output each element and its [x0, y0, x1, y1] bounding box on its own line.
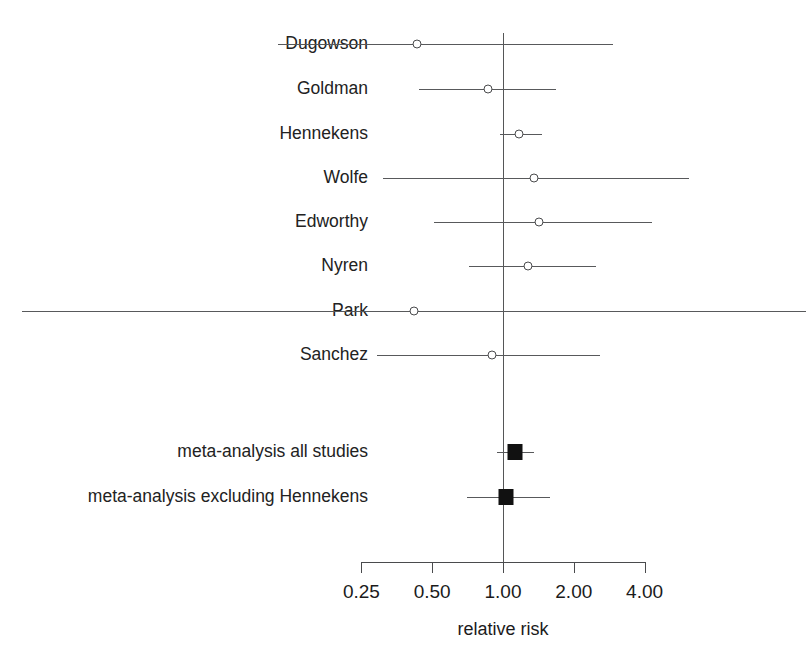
x-axis-tick-label: 2.00: [555, 582, 592, 601]
x-axis-title: relative risk: [457, 620, 548, 638]
forest-plot: DugowsonGoldmanHennekensWolfeEdworthyNyr…: [0, 0, 811, 666]
x-axis-tick: [503, 562, 504, 573]
x-axis-tick: [361, 562, 362, 573]
x-axis-tick-label: 0.25: [343, 582, 380, 601]
study-row-label: Edworthy: [295, 213, 368, 231]
point-estimate-marker: [483, 85, 492, 94]
study-row-label: Wolfe: [324, 169, 368, 187]
summary-row-label: meta-analysis excluding Hennekens: [88, 488, 368, 506]
summary-row-label: meta-analysis all studies: [177, 443, 368, 461]
point-estimate-marker: [410, 307, 419, 316]
summary-estimate-marker: [499, 489, 514, 505]
x-axis-tick: [574, 562, 575, 573]
study-row-label: Hennekens: [279, 125, 368, 143]
study-row-label: Sanchez: [300, 346, 368, 364]
x-axis-tick: [645, 562, 646, 573]
point-estimate-marker: [524, 262, 533, 271]
study-row-label: Goldman: [297, 80, 368, 98]
x-axis-tick-label: 1.00: [485, 582, 522, 601]
point-estimate-marker: [515, 130, 524, 139]
point-estimate-marker: [488, 351, 497, 360]
confidence-interval-line: [278, 44, 614, 45]
point-estimate-marker: [530, 174, 539, 183]
x-axis-tick-label: 0.50: [414, 582, 451, 601]
x-axis-tick: [432, 562, 433, 573]
point-estimate-marker: [412, 40, 421, 49]
summary-estimate-marker: [507, 444, 522, 460]
confidence-interval-line: [469, 266, 596, 267]
null-effect-line: [503, 33, 504, 566]
study-row-label: Nyren: [321, 257, 368, 275]
x-axis-tick-label: 4.00: [626, 582, 663, 601]
point-estimate-marker: [534, 218, 543, 227]
